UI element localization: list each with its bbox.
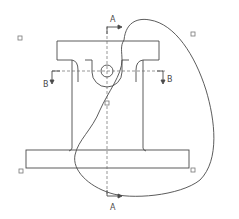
section-label-a-bottom: A (110, 203, 116, 212)
grip-handle[interactable] (19, 169, 23, 173)
section-label-b-left: B (43, 80, 49, 89)
grip-handle[interactable] (191, 168, 195, 172)
cad-drawing: A A B B (0, 0, 239, 219)
section-label-a-top: A (110, 15, 116, 24)
grip-handle[interactable] (105, 101, 109, 105)
central-column[interactable] (69, 60, 146, 151)
drawing-canvas: A A B B (0, 0, 239, 219)
section-label-b-right: B (167, 75, 173, 84)
grip-handle[interactable] (191, 32, 195, 36)
grip-handle[interactable] (18, 36, 22, 40)
bottom-flange[interactable] (26, 150, 189, 168)
